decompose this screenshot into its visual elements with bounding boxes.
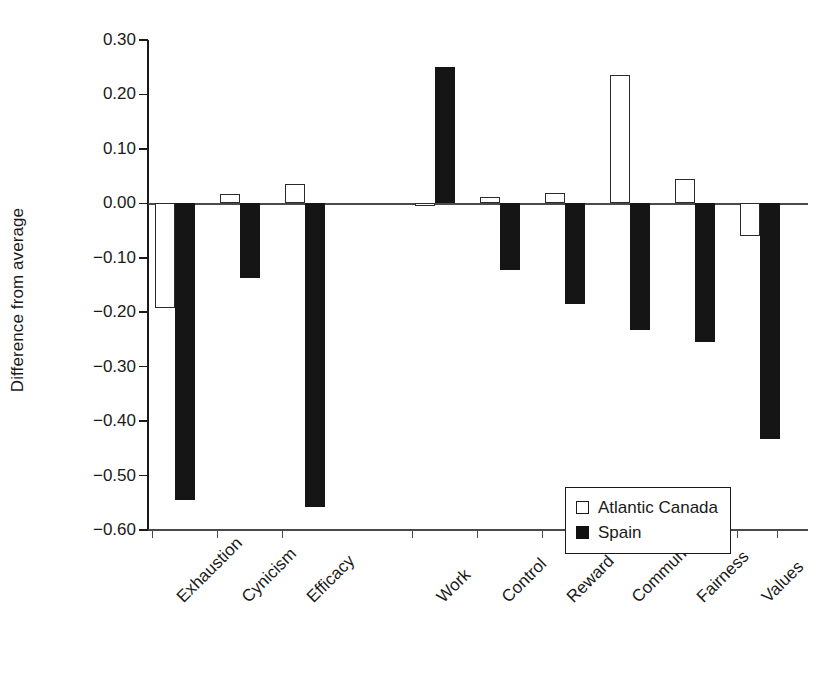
bar-spain-exhaustion[interactable] [175,203,195,500]
y-tick [139,475,148,477]
y-tick-label: −0.40 [64,412,136,429]
bar-spain-cynicism[interactable] [240,203,260,278]
y-axis-line [147,40,149,530]
y-tick [139,203,148,205]
bar-spain-reward[interactable] [565,203,585,304]
chart-figure: Difference from average 0.300.200.100.00… [0,0,838,693]
bar-spain-values[interactable] [760,203,780,438]
bar-spain-control[interactable] [500,203,520,269]
y-tick-label: 0.10 [64,140,136,157]
bar-atlantic-canada-work[interactable] [415,203,435,205]
bar-atlantic-canada-cynicism[interactable] [220,194,240,204]
x-axis-label-values: Values [758,557,808,607]
plot-area: 0.300.200.100.00−0.10−0.20−0.30−0.40−0.5… [148,40,808,530]
x-axis-label-fairness: Fairness [693,547,753,607]
x-axis-label-cynicism: Cynicism [238,544,301,607]
y-tick [139,94,148,96]
y-tick [139,148,148,150]
x-axis-label-exhaustion: Exhaustion [173,534,247,608]
bar-atlantic-canada-fairness[interactable] [675,179,695,204]
x-axis-label-reward: Reward [563,552,619,608]
legend: Atlantic Canada Spain [565,487,731,554]
legend-label: Spain [598,523,641,543]
y-tick-label: −0.50 [64,467,136,484]
bar-spain-work[interactable] [435,67,455,203]
y-axis-title: Difference from average [8,150,28,450]
bar-atlantic-canada-control[interactable] [480,197,500,203]
x-axis-label-control: Control [498,554,551,607]
y-tick [139,366,148,368]
bar-atlantic-canada-values[interactable] [740,203,760,236]
y-tick-label: 0.30 [64,31,136,48]
x-axis-labels: ExhaustionCynicismEfficacyWorkControlRew… [148,535,838,685]
bar-atlantic-canada-reward[interactable] [545,193,565,203]
y-tick-label: −0.30 [64,358,136,375]
x-axis-label-work: Work [433,565,475,607]
y-tick-label: −0.10 [64,249,136,266]
legend-item[interactable]: Spain [576,520,718,545]
y-tick-label: 0.20 [64,85,136,102]
y-tick [139,420,148,422]
y-tick-label: −0.20 [64,303,136,320]
y-tick [139,311,148,313]
bar-spain-fairness[interactable] [695,203,715,342]
bar-spain-efficacy[interactable] [305,203,325,507]
bar-atlantic-canada-community[interactable] [610,75,630,203]
legend-item[interactable]: Atlantic Canada [576,495,718,520]
y-tick-label: 0.00 [64,194,136,211]
bar-atlantic-canada-exhaustion[interactable] [155,203,175,308]
x-axis-label-efficacy: Efficacy [303,551,359,607]
legend-label: Atlantic Canada [598,498,718,518]
legend-swatch-spain [576,526,589,539]
legend-swatch-atlantic-canada [576,501,589,514]
y-tick [139,529,148,531]
bar-atlantic-canada-efficacy[interactable] [285,184,305,203]
y-tick [139,257,148,259]
y-tick-label: −0.60 [64,521,136,538]
y-tick [139,39,148,41]
bar-spain-community[interactable] [630,203,650,330]
